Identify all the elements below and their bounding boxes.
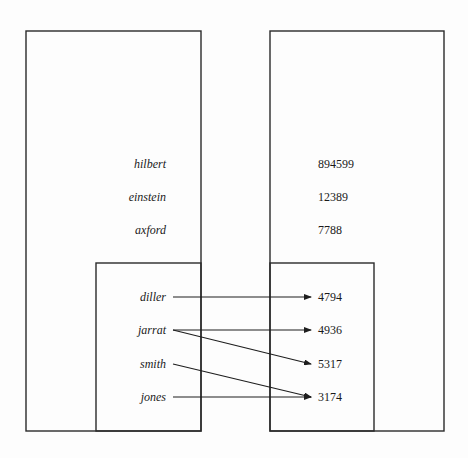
value-4794: 4794 bbox=[318, 290, 342, 304]
label-jones: jones bbox=[66, 390, 166, 404]
right-inner-box bbox=[270, 263, 374, 431]
value-5317: 5317 bbox=[318, 357, 342, 371]
arrow-group bbox=[173, 297, 311, 397]
label-axford: axford bbox=[66, 223, 166, 237]
arrow-smith-to-3174 bbox=[173, 364, 311, 397]
right-outer-box bbox=[270, 31, 444, 431]
arrow-jarrat-to-5317 bbox=[173, 330, 311, 364]
diagram-canvas: hilbert einstein axford diller jarrat sm… bbox=[0, 0, 468, 458]
left-inner-box bbox=[96, 263, 201, 431]
label-smith: smith bbox=[66, 357, 166, 371]
value-7788: 7788 bbox=[318, 223, 342, 237]
value-3174: 3174 bbox=[318, 390, 342, 404]
value-12389: 12389 bbox=[318, 190, 348, 204]
label-hilbert: hilbert bbox=[66, 157, 166, 171]
value-4936: 4936 bbox=[318, 323, 342, 337]
label-jarrat: jarrat bbox=[66, 323, 166, 337]
label-diller: diller bbox=[66, 290, 166, 304]
label-einstein: einstein bbox=[66, 190, 166, 204]
value-894599: 894599 bbox=[318, 157, 354, 171]
